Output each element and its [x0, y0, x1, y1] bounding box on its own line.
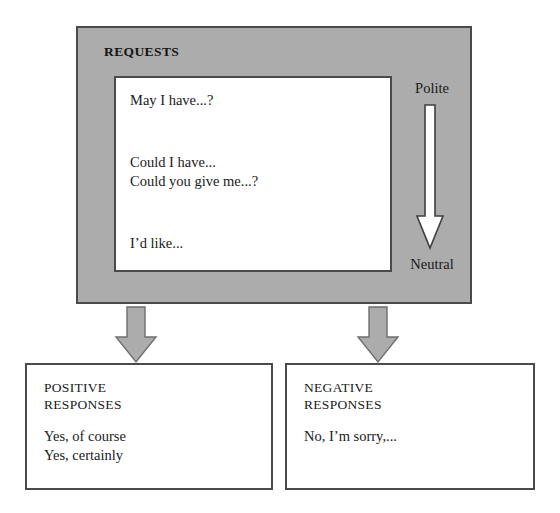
request-phrase-id-like: I’d like... [130, 234, 183, 253]
requests-panel-title: REQUESTS [104, 44, 179, 60]
connector-arrow-to-negative-icon [356, 306, 400, 364]
positive-responses-box: POSITIVE RESPONSES Yes, of course Yes, c… [25, 363, 273, 490]
negative-responses-heading: NEGATIVE RESPONSES [304, 379, 382, 413]
connector-arrow-to-positive-icon [114, 306, 158, 364]
politeness-scale-top-label: Polite [400, 80, 464, 97]
negative-responses-examples: No, I’m sorry,... [304, 427, 397, 446]
diagram-canvas: REQUESTS May I have...? Could I have... … [0, 0, 560, 513]
negative-responses-box: NEGATIVE RESPONSES No, I’m sorry,... [285, 363, 535, 490]
request-phrase-could-you-give-me: Could you give me...? [130, 172, 258, 191]
politeness-scale-bottom-label: Neutral [396, 256, 468, 273]
positive-responses-heading: POSITIVE RESPONSES [44, 379, 122, 413]
request-phrase-may-i-have: May I have...? [130, 91, 213, 110]
positive-responses-examples: Yes, of course Yes, certainly [44, 427, 126, 465]
request-phrase-could-i-have: Could I have... [130, 153, 216, 172]
politeness-down-arrow-icon [412, 104, 448, 250]
